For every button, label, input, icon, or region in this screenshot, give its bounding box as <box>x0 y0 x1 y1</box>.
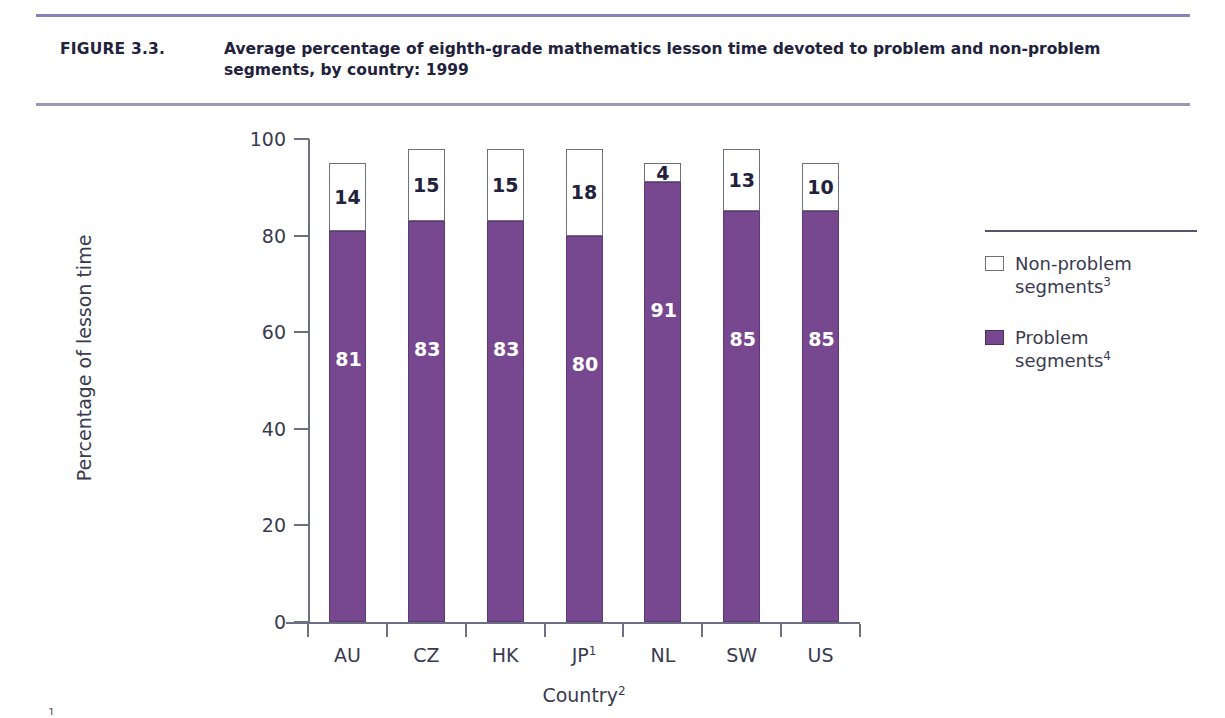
y-axis-tick-label: 80 <box>234 225 286 247</box>
bar-value-label-problem: 80 <box>567 353 604 375</box>
legend-label: Non-problemsegments3 <box>1015 252 1132 299</box>
x-axis-tick <box>386 624 388 637</box>
x-axis-tick <box>780 624 782 637</box>
y-axis-tick <box>294 428 309 430</box>
bar-segment-problem[interactable]: 81 <box>329 231 366 622</box>
plot-area: 811483158315801891485138510 <box>308 139 860 622</box>
x-axis-tick <box>544 624 546 637</box>
y-axis-tick-label: 100 <box>234 128 286 150</box>
y-axis-tick-label: 0 <box>234 611 286 633</box>
bar-value-label-nonproblem: 10 <box>807 176 833 198</box>
x-axis-tick <box>307 624 309 637</box>
legend-swatch-purple <box>985 330 1004 345</box>
bar-segment-problem[interactable]: 83 <box>487 221 524 622</box>
bar-value-label-nonproblem: 18 <box>571 181 597 203</box>
bar-value-label-nonproblem: 13 <box>728 169 754 191</box>
bar-segment-problem[interactable]: 85 <box>802 211 839 622</box>
legend-label-line2: segments3 <box>1015 275 1132 298</box>
bar-group[interactable]: 8513 <box>723 139 760 622</box>
x-axis-title-text: Country <box>542 684 617 706</box>
chart-figure: 020406080100 Percentage of lesson time 8… <box>0 106 1225 718</box>
bar-value-label-problem: 85 <box>803 328 840 350</box>
bar-group[interactable]: 8114 <box>329 139 366 622</box>
y-axis-tick <box>294 138 309 140</box>
x-axis-tick-label-text: SW <box>726 644 757 666</box>
y-axis-tick <box>294 524 309 526</box>
x-axis-tick-label: SW <box>697 644 787 666</box>
bar-value-label-nonproblem: 15 <box>492 174 518 196</box>
bar-segment-problem[interactable]: 85 <box>723 211 760 622</box>
x-axis-tick <box>622 624 624 637</box>
x-axis-tick-label: HK <box>460 644 550 666</box>
bar-value-label-nonproblem: 4 <box>656 162 669 184</box>
legend-label-superscript: 3 <box>1103 275 1111 289</box>
x-axis-tick-label: AU <box>302 644 392 666</box>
bar-segment-problem[interactable]: 83 <box>408 221 445 622</box>
footnote-marker: 1 <box>48 706 55 715</box>
bar-group[interactable]: 8510 <box>802 139 839 622</box>
y-axis-tick-label: 40 <box>234 418 286 440</box>
bar-value-label-problem: 81 <box>330 348 367 370</box>
x-axis-tick-label-text: US <box>808 644 834 666</box>
y-axis-tick <box>294 235 309 237</box>
bar-value-label-nonproblem: 14 <box>334 186 360 208</box>
bar-segment-nonproblem[interactable]: 10 <box>802 163 839 211</box>
x-axis-tick-label-text: HK <box>492 644 519 666</box>
x-axis-tick-label: JP1 <box>539 644 629 666</box>
y-axis-title: Percentage of lesson time <box>73 193 95 523</box>
bar-group[interactable]: 8018 <box>566 139 603 622</box>
y-axis-tick-label: 60 <box>234 321 286 343</box>
bar-value-label-nonproblem: 15 <box>413 174 439 196</box>
legend-label-line2-text: segments <box>1015 350 1103 371</box>
legend-item[interactable]: Non-problemsegments3 <box>985 252 1197 299</box>
x-axis-tick <box>859 624 861 637</box>
x-axis-tick <box>465 624 467 637</box>
legend-label-line2-text: segments <box>1015 276 1103 297</box>
bar-group[interactable]: 914 <box>644 139 681 622</box>
y-axis-tick-label: 20 <box>234 514 286 536</box>
legend-label-line1: Problem <box>1015 326 1111 349</box>
x-axis-tick-label: US <box>776 644 866 666</box>
x-axis-tick <box>701 624 703 637</box>
x-axis-tick-label-text: AU <box>334 644 361 666</box>
legend-label-superscript: 4 <box>1103 349 1111 363</box>
bar-value-label-problem: 91 <box>645 299 682 321</box>
bar-value-label-problem: 85 <box>724 328 761 350</box>
y-axis-tick <box>294 621 309 623</box>
bar-segment-nonproblem[interactable]: 4 <box>644 163 681 182</box>
x-axis-tick-label-text: NL <box>650 644 675 666</box>
y-axis-tick <box>294 331 309 333</box>
bar-segment-nonproblem[interactable]: 18 <box>566 149 603 236</box>
x-axis-tick-label-text: CZ <box>413 644 439 666</box>
bar-value-label-problem: 83 <box>409 338 446 360</box>
header-top-rule <box>36 14 1190 17</box>
x-axis-tick-label: NL <box>618 644 708 666</box>
figure-title: Average percentage of eighth-grade mathe… <box>224 39 1154 82</box>
figure-header: FIGURE 3.3. Average percentage of eighth… <box>36 14 1190 106</box>
legend-item[interactable]: Problemsegments4 <box>985 326 1197 373</box>
bar-group[interactable]: 8315 <box>408 139 445 622</box>
figure-number-label: FIGURE 3.3. <box>60 40 165 58</box>
legend-label-line2: segments4 <box>1015 349 1111 372</box>
x-axis-title-superscript: 2 <box>618 684 626 698</box>
bar-value-label-problem: 83 <box>488 338 525 360</box>
x-axis-tick-label-text: JP <box>572 644 589 666</box>
legend-label-line1: Non-problem <box>1015 252 1132 275</box>
legend-swatch-white <box>985 256 1004 271</box>
x-axis-line <box>286 622 860 624</box>
bar-segment-problem[interactable]: 91 <box>644 182 681 622</box>
bar-segment-nonproblem[interactable]: 15 <box>408 149 445 221</box>
legend-label: Problemsegments4 <box>1015 326 1111 373</box>
bar-segment-nonproblem[interactable]: 14 <box>329 163 366 231</box>
bar-segment-nonproblem[interactable]: 15 <box>487 149 524 221</box>
x-axis-title: Country2 <box>308 684 860 706</box>
bar-segment-nonproblem[interactable]: 13 <box>723 149 760 212</box>
x-axis-tick-label: CZ <box>381 644 471 666</box>
bar-segment-problem[interactable]: 80 <box>566 236 603 622</box>
legend-top-rule <box>985 230 1197 232</box>
bar-group[interactable]: 8315 <box>487 139 524 622</box>
x-axis-tick-label-superscript: 1 <box>589 644 597 658</box>
